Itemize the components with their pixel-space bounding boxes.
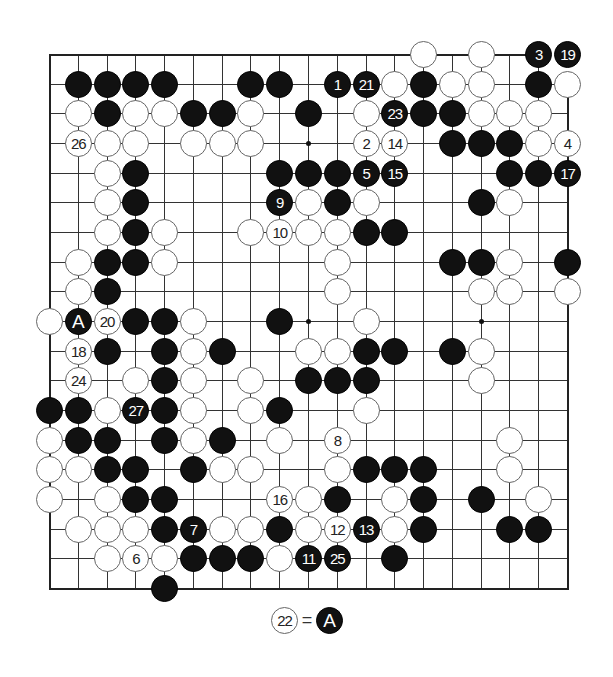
white-stone: [237, 367, 264, 394]
black-stone: [151, 427, 178, 454]
white-stone: [324, 249, 351, 276]
white-stone: 14: [381, 130, 408, 157]
black-stone: [266, 308, 293, 335]
black-stone: [151, 338, 178, 365]
white-stone: [151, 219, 178, 246]
white-stone: [468, 338, 495, 365]
black-stone: [122, 486, 149, 513]
black-stone: [151, 575, 178, 602]
white-stone: [266, 427, 293, 454]
white-stone: [324, 278, 351, 305]
star-point: [306, 319, 311, 324]
white-stone: 18: [65, 338, 92, 365]
black-stone: [266, 516, 293, 543]
black-stone: [151, 71, 178, 98]
caption-black-stone: A: [316, 607, 343, 634]
black-stone: [410, 516, 437, 543]
board-edge-bottom: [49, 588, 569, 590]
white-stone: [65, 100, 92, 127]
white-stone: [324, 219, 351, 246]
white-stone: [353, 100, 380, 127]
black-stone: [439, 100, 466, 127]
white-stone: [94, 219, 121, 246]
black-stone: [295, 160, 322, 187]
white-stone: [353, 189, 380, 216]
black-stone: [266, 71, 293, 98]
black-stone: [94, 456, 121, 483]
black-stone: [94, 249, 121, 276]
white-stone: [122, 367, 149, 394]
black-stone: 9: [266, 189, 293, 216]
black-stone: [496, 130, 523, 157]
white-stone: [209, 130, 236, 157]
black-stone: [94, 100, 121, 127]
black-stone: [180, 100, 207, 127]
black-stone: [353, 456, 380, 483]
white-stone: [410, 41, 437, 68]
white-stone: [180, 130, 207, 157]
caption-white-stone: 22: [271, 607, 298, 634]
black-stone: [324, 189, 351, 216]
black-stone: [122, 308, 149, 335]
black-stone: [410, 456, 437, 483]
black-stone: [439, 249, 466, 276]
black-stone: [381, 219, 408, 246]
black-stone: [151, 367, 178, 394]
black-stone: [65, 397, 92, 424]
white-stone: [468, 71, 495, 98]
black-stone: [353, 367, 380, 394]
black-stone: [209, 338, 236, 365]
black-stone: 5: [353, 160, 380, 187]
black-stone: [468, 486, 495, 513]
black-stone: [122, 219, 149, 246]
black-stone: [94, 427, 121, 454]
white-stone: [36, 456, 63, 483]
white-stone: [94, 160, 121, 187]
white-stone: [180, 367, 207, 394]
grid-line-horizontal: [50, 440, 568, 441]
white-stone: [554, 278, 581, 305]
white-stone: [36, 427, 63, 454]
white-stone: [237, 130, 264, 157]
white-stone: [439, 71, 466, 98]
white-stone: [525, 130, 552, 157]
white-stone: [381, 486, 408, 513]
black-stone: 7: [180, 516, 207, 543]
white-stone: [209, 516, 236, 543]
black-stone: [324, 160, 351, 187]
white-stone: [468, 367, 495, 394]
black-stone: [353, 219, 380, 246]
black-stone: [525, 516, 552, 543]
white-stone: [295, 189, 322, 216]
black-stone: [94, 338, 121, 365]
white-stone: [65, 249, 92, 276]
black-stone: [525, 71, 552, 98]
black-stone: [554, 249, 581, 276]
black-stone: [209, 427, 236, 454]
white-stone: [237, 100, 264, 127]
white-stone: [496, 189, 523, 216]
black-stone: 3: [525, 41, 552, 68]
board-edge-top: [49, 54, 540, 56]
white-stone: [237, 397, 264, 424]
white-stone: [496, 249, 523, 276]
white-stone: 8: [324, 427, 351, 454]
white-stone: [324, 338, 351, 365]
black-stone: [295, 367, 322, 394]
white-stone: [324, 456, 351, 483]
white-stone: [94, 486, 121, 513]
black-stone: 27: [122, 397, 149, 424]
white-stone: [180, 308, 207, 335]
white-stone: [468, 278, 495, 305]
white-stone: [151, 100, 178, 127]
white-stone: [295, 219, 322, 246]
white-stone: [237, 516, 264, 543]
white-stone: [65, 278, 92, 305]
black-stone: A: [65, 308, 92, 335]
black-stone: [468, 249, 495, 276]
white-stone: [94, 516, 121, 543]
black-stone: [65, 427, 92, 454]
black-stone: 17: [554, 160, 581, 187]
white-stone: 6: [122, 545, 149, 572]
white-stone: [122, 516, 149, 543]
